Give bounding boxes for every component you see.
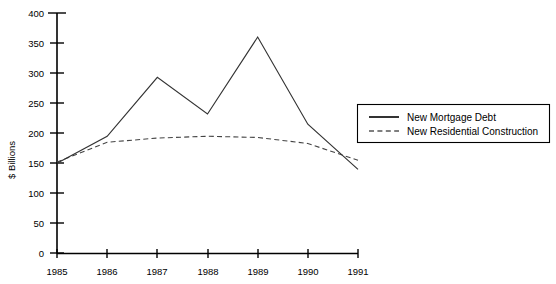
y-tick-label-200: 200 — [28, 128, 44, 139]
x-tick-label-1991: 1991 — [347, 266, 368, 277]
chart-svg: 400 350 300 250 200 150 100 50 0 $ Billi… — [0, 0, 556, 284]
y-tick-label-100: 100 — [28, 188, 44, 199]
y-tick-label-350: 350 — [28, 38, 44, 49]
x-tick-label-1985: 1985 — [46, 266, 67, 277]
x-tick-label-1986: 1986 — [96, 266, 117, 277]
series-line-new-mortgage-debt — [57, 37, 358, 169]
x-tick-label-1989: 1989 — [247, 266, 268, 277]
y-axis-title: $ Billions — [6, 141, 17, 179]
legend-border — [358, 105, 550, 143]
y-tick-label-300: 300 — [28, 68, 44, 79]
y-tick-label-50: 50 — [33, 218, 44, 229]
y-tick-label-250: 250 — [28, 98, 44, 109]
x-axis: 1985 1986 1987 1988 1989 1990 1991 — [46, 249, 368, 277]
y-tick-label-150: 150 — [28, 158, 44, 169]
x-tick-label-1987: 1987 — [146, 266, 167, 277]
plot-series-group — [57, 37, 358, 169]
x-tick-label-1990: 1990 — [297, 266, 318, 277]
y-axis: 400 350 300 250 200 150 100 50 0 $ Billi… — [6, 8, 66, 259]
y-tick-label-400: 400 — [28, 8, 44, 19]
line-chart-figure: 400 350 300 250 200 150 100 50 0 $ Billi… — [0, 0, 556, 284]
chart-legend: New Mortgage Debt New Residential Constr… — [358, 105, 550, 143]
legend-label-new-mortgage-debt: New Mortgage Debt — [407, 112, 496, 123]
legend-label-new-residential-construction: New Residential Construction — [407, 126, 538, 137]
y-tick-label-0: 0 — [39, 248, 44, 259]
x-tick-label-1988: 1988 — [197, 266, 218, 277]
series-line-new-residential-construction — [57, 136, 358, 162]
